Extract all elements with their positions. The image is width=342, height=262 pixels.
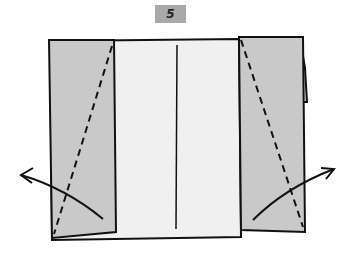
left-flap <box>49 40 116 238</box>
origami-diagram <box>0 0 342 262</box>
